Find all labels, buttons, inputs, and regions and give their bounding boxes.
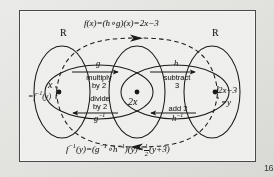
dot-2x-minus-3 — [213, 90, 218, 95]
map-description-multiply-by-2: multiply by 2 — [78, 74, 120, 89]
node-label-2x-minus-3: 2x−3 — [218, 86, 237, 95]
formula-composition: =(h∘g)(x) — [97, 18, 134, 28]
x-sub-argument: (y) — [42, 92, 51, 101]
element-dots-group — [57, 90, 218, 95]
map-label-g-inverse: g−1 — [94, 114, 105, 123]
inv-g-exponent: −1 — [99, 142, 106, 149]
node-label-2x: 2x — [128, 97, 137, 107]
dot-2x — [135, 90, 140, 95]
map-label-h-inverse: h−1 — [172, 114, 183, 123]
inv-f-argument: (y)=( — [76, 144, 95, 154]
node-label-equals-y: =y — [221, 98, 231, 107]
inv-f-exponent: −1 — [69, 142, 76, 149]
dot-x — [57, 90, 62, 95]
set-label-left-R: R — [60, 28, 67, 38]
h-inverse-exponent: −1 — [176, 112, 183, 118]
map-description-subtract-3: subtract 3 — [154, 74, 200, 89]
x-sub-prefix: =f — [28, 92, 36, 101]
formula-result: =2x−3 — [134, 18, 159, 28]
set-label-right-R: R — [212, 28, 219, 38]
g-inverse-exponent: −1 — [98, 112, 105, 118]
map-description-divide-by-2: divide by 2 — [80, 95, 120, 110]
inverse-composition-formula: f−1(y)=(g−1∘h−1)(y)=12(y+3) — [66, 143, 170, 157]
inv-tail: (y+3) — [149, 144, 170, 154]
inv-closing: )(y)= — [125, 144, 144, 154]
node-label-x: x — [48, 80, 52, 90]
inv-h-exponent: −1 — [117, 142, 124, 149]
page-number: 16 — [264, 163, 273, 173]
scanned-page-background: f(x)=(h∘g)(x)=2x−3 R R x =f−1(y) 2x 2x−3… — [0, 0, 274, 177]
map-label-h: h — [174, 59, 178, 68]
multiply-line2: by 2 — [92, 81, 106, 90]
divide-line2: by 2 — [93, 102, 107, 111]
map-label-g: g — [96, 59, 100, 68]
subtract-line2: 3 — [175, 81, 179, 90]
forward-composition-formula: f(x)=(h∘g)(x)=2x−3 — [84, 19, 159, 28]
formula-f-of-x: f(x) — [84, 18, 97, 28]
node-label-x-inverse-expr: =f−1(y) — [28, 93, 51, 101]
